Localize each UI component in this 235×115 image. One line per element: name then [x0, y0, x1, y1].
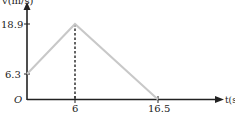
y-tick-label-6-3: 6.3 [5, 69, 21, 80]
y-axis-label: v(m/s) [1, 0, 34, 6]
origin-label: O [14, 94, 22, 105]
x-axis-arrow-icon [215, 96, 224, 103]
x-tick-label-16-5: 16.5 [148, 103, 170, 114]
velocity-line [27, 24, 158, 100]
x-axis-label: t(s) [225, 95, 235, 105]
x-tick-label-6: 6 [72, 103, 78, 114]
y-tick-label-18-9: 18.9 [1, 19, 23, 30]
velocity-time-chart: v(m/s) 18.9 6.3 O 6 16.5 t(s) [0, 0, 235, 115]
